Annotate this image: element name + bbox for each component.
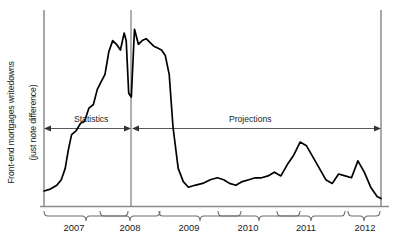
x-tick-label-2011: 2011 bbox=[278, 222, 334, 233]
statistics-label: Statistics bbox=[74, 114, 108, 124]
x-tick-label-2010: 2010 bbox=[219, 222, 277, 233]
projections-label: Projections bbox=[229, 114, 272, 124]
x-tick-label-2009: 2009 bbox=[160, 222, 218, 233]
x-tick-label-2012: 2012 bbox=[345, 222, 385, 233]
chart-figure: Front-end mortgages writedowns (just not… bbox=[0, 0, 397, 245]
y-axis-label: Front-end mortgages writedowns (just not… bbox=[0, 23, 50, 223]
x-axis-brace-group bbox=[44, 211, 380, 221]
line-chart-canvas bbox=[0, 0, 397, 245]
projections-arrow bbox=[132, 126, 381, 132]
x-tick-label-2007: 2007 bbox=[46, 222, 102, 233]
y-axis-label-line1: Front-end mortgages writedowns bbox=[6, 23, 17, 223]
statistics-arrow bbox=[44, 126, 131, 132]
x-tick-label-2008: 2008 bbox=[103, 222, 157, 233]
y-axis-label-line2: (just note difference) bbox=[28, 23, 39, 223]
